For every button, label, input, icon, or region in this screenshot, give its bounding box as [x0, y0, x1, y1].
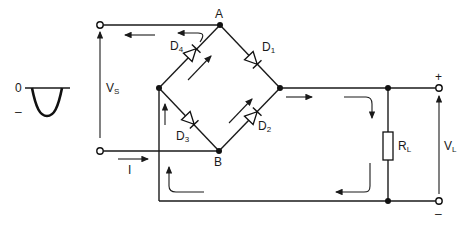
vl-label: VL	[444, 139, 457, 154]
load-wiring: RL + – VL	[159, 70, 457, 221]
output-terminal-plus	[436, 85, 442, 91]
output-terminal-minus	[436, 198, 442, 204]
rl-label: RL	[398, 139, 412, 154]
waveform-zero-label: 0	[15, 81, 22, 95]
waveform-minus-label: –	[15, 105, 22, 119]
bridge: D4 D1 D3 D2 A B	[156, 7, 283, 169]
load-resistor	[383, 132, 393, 160]
vs-label: VS	[106, 81, 119, 96]
input-waveform: 0 –	[15, 81, 70, 119]
d1-label: D1	[262, 40, 276, 55]
node-a	[217, 22, 223, 28]
node-a-label: A	[215, 7, 223, 21]
d3-label: D3	[176, 129, 190, 144]
node-b-label: B	[214, 155, 222, 169]
source-terminal-bottom	[97, 148, 103, 154]
current-label: I	[128, 163, 131, 177]
d4-label: D4	[170, 39, 184, 54]
plus-label: +	[435, 70, 442, 84]
bridge-rectifier-diagram: 0 – VS I D4 D1	[0, 0, 466, 226]
node-b	[216, 148, 222, 154]
source-terminal-top	[97, 22, 103, 28]
minus-label: –	[435, 207, 442, 221]
d2-label: D2	[258, 119, 272, 134]
